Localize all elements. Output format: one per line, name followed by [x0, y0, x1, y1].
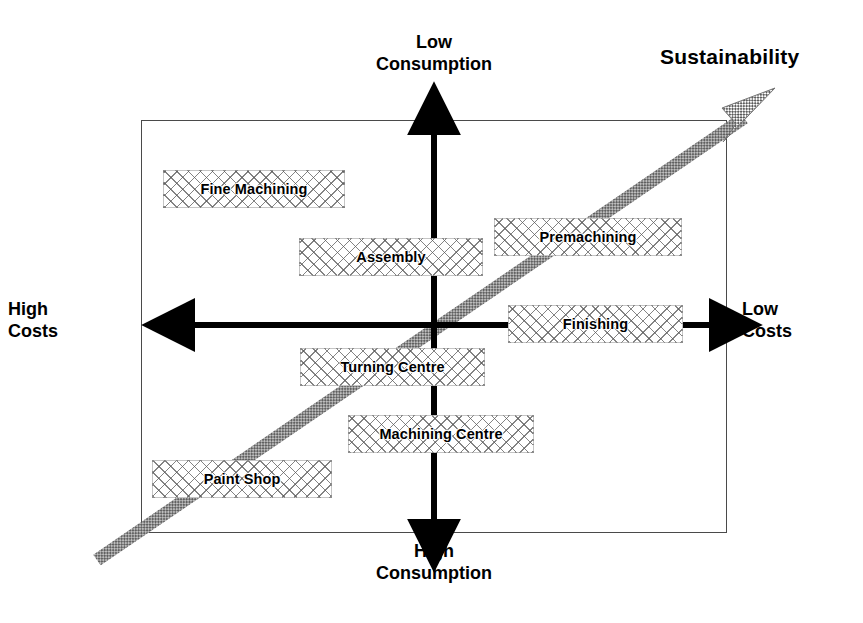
item-box-finishing[interactable]: Finishing: [508, 305, 683, 343]
item-box-machining-centre[interactable]: Machining Centre: [348, 415, 534, 453]
item-box-premachining[interactable]: Premachining: [494, 218, 682, 256]
axis-label-right: Low Costs: [742, 299, 862, 343]
item-box-paint-shop[interactable]: Paint Shop: [152, 460, 332, 498]
axis-label-bottom: High Consumption: [334, 541, 534, 585]
item-box-fine-machining[interactable]: Fine Machining: [163, 170, 345, 208]
item-label: Premachining: [537, 229, 638, 245]
item-label: Finishing: [561, 316, 630, 332]
item-label: Fine Machining: [199, 181, 310, 197]
axis-label-top: Low Consumption: [334, 32, 534, 76]
item-box-assembly[interactable]: Assembly: [299, 238, 483, 276]
item-label: Paint Shop: [202, 471, 283, 487]
sustainability-label: Sustainability: [660, 45, 799, 69]
item-label: Turning Centre: [338, 359, 446, 375]
axis-label-left: High Costs: [8, 299, 120, 343]
diagram-canvas: Fine Machining Premachining Assembly Fin…: [0, 0, 863, 623]
item-label: Machining Centre: [377, 426, 504, 442]
item-label: Assembly: [354, 249, 427, 265]
item-box-turning-centre[interactable]: Turning Centre: [300, 348, 485, 386]
